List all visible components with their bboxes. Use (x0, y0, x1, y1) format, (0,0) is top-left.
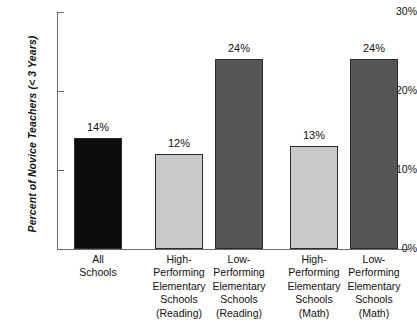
y-tick-mark-30pct (57, 12, 64, 13)
x-axis-label-line: Schools (59, 266, 137, 279)
bar-3[interactable] (290, 146, 338, 249)
y-tick-mark-0pct (57, 249, 64, 250)
x-axis-label-line: (Reading) (199, 307, 279, 320)
bar-2[interactable] (215, 59, 263, 249)
y-tick-mark-20pct (57, 91, 64, 92)
bar-value-label-1: 12% (145, 138, 213, 149)
bar-value-label-4: 24% (340, 43, 408, 54)
x-axis-line (57, 249, 410, 250)
x-axis-label-line: Schools (334, 293, 414, 306)
x-axis-label-line: Performing (334, 266, 414, 279)
bar-value-label-2: 24% (205, 43, 273, 54)
bar-0[interactable] (74, 138, 122, 249)
bar-value-label-0: 14% (64, 122, 132, 133)
x-axis-label-line: Low- (334, 253, 414, 266)
bar-value-label-3: 13% (280, 130, 348, 141)
x-axis-label-4: Low-PerformingElementarySchools(Math) (334, 253, 414, 320)
x-axis-label-line: All (59, 253, 137, 266)
bar-4[interactable] (350, 59, 398, 249)
bar-chart: Percent of Novice Teachers (< 3 Years) 0… (0, 0, 417, 335)
bar-1[interactable] (155, 154, 203, 249)
y-tick-label-30pct: 30% (369, 6, 417, 17)
x-axis-label-0: AllSchools (59, 253, 137, 280)
x-axis-label-line: Schools (199, 293, 279, 306)
y-tick-mark-10pct (57, 170, 64, 171)
x-axis-label-line: Low- (199, 253, 279, 266)
y-axis-line (57, 12, 58, 250)
x-axis-label-line: (Math) (334, 307, 414, 320)
x-axis-label-2: Low-PerformingElementarySchools(Reading) (199, 253, 279, 320)
y-axis-title: Percent of Novice Teachers (< 3 Years) (26, 24, 38, 244)
x-axis-label-line: Elementary (334, 280, 414, 293)
x-axis-label-line: Performing (199, 266, 279, 279)
x-axis-label-line: Elementary (199, 280, 279, 293)
